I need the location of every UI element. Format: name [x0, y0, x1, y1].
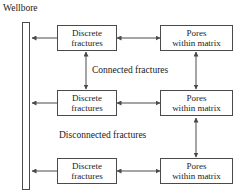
- node-pores-within-matrix-top[interactable]: Pores within matrix: [160, 25, 233, 51]
- node-line-2: within matrix: [172, 38, 221, 49]
- node-line-1: Discrete: [72, 93, 102, 104]
- node-line-2: fractures: [71, 171, 102, 182]
- node-line-1: Discrete: [72, 161, 102, 172]
- node-discrete-fractures-middle[interactable]: Discrete fractures: [57, 90, 117, 116]
- node-line-2: fractures: [71, 103, 102, 114]
- node-discrete-fractures-top[interactable]: Discrete fractures: [57, 25, 117, 51]
- node-line-2: within matrix: [172, 171, 221, 182]
- node-line-1: Pores: [187, 161, 207, 172]
- node-line-1: Pores: [187, 28, 207, 39]
- node-discrete-fractures-bottom[interactable]: Discrete fractures: [57, 158, 117, 184]
- node-line-2: fractures: [71, 38, 102, 49]
- node-line-2: within matrix: [172, 103, 221, 114]
- flow-diagram: Wellbore Discrete: [0, 0, 239, 196]
- node-pores-within-matrix-bottom[interactable]: Pores within matrix: [160, 158, 233, 184]
- node-line-1: Discrete: [72, 28, 102, 39]
- edge-label-disconnected-fractures: Disconnected fractures: [57, 130, 148, 141]
- node-line-1: Pores: [187, 93, 207, 104]
- wellbore-bar: [23, 23, 30, 190]
- node-pores-within-matrix-middle[interactable]: Pores within matrix: [160, 90, 233, 116]
- edge-label-connected-fractures: Connected fractures: [90, 65, 170, 76]
